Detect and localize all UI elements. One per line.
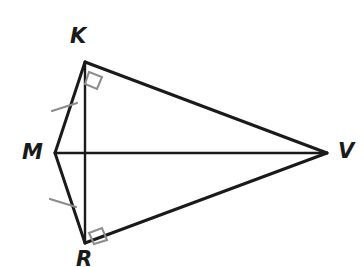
vertex-label-k: K xyxy=(70,26,86,47)
segment-RV xyxy=(85,153,327,243)
right-angle-mark-k-icon xyxy=(85,72,102,89)
vertex-label-r: R xyxy=(76,249,92,267)
geometry-figure: K M V R xyxy=(0,0,364,267)
segment-KV xyxy=(85,62,327,153)
congruence-tick-mk-icon xyxy=(52,103,77,111)
vertex-label-m: M xyxy=(22,142,43,163)
vertex-label-v: V xyxy=(338,141,354,162)
segment-MR xyxy=(55,153,85,243)
geometry-canvas xyxy=(0,0,364,267)
